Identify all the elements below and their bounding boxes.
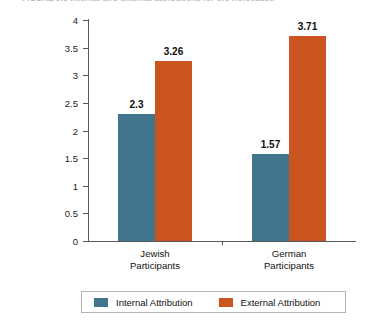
x-axis-category-label: GermanParticipants — [234, 248, 344, 272]
bar-internal — [118, 114, 155, 241]
legend-swatch-external — [219, 298, 233, 307]
legend-entry-internal: Internal Attribution — [94, 292, 193, 312]
legend-swatch-internal — [94, 298, 108, 307]
x-axis-category-label-line: Participants — [100, 260, 210, 272]
bar-internal — [252, 154, 289, 241]
y-axis-tick — [83, 241, 89, 242]
x-axis-mid-tick — [222, 241, 223, 245]
x-axis-category-label: JewishParticipants — [100, 248, 210, 272]
chart-legend: Internal Attribution External Attributio… — [81, 291, 346, 313]
legend-label-internal: Internal Attribution — [116, 297, 193, 308]
bar-value-label: 2.3 — [112, 100, 161, 110]
x-axis-category-label-line: Jewish — [100, 248, 210, 260]
bar-chart: 00.511.522.533.54 Strength of Attributio… — [0, 0, 369, 282]
bars-layer — [0, 0, 369, 241]
bar-value-label: 3.71 — [283, 22, 332, 32]
legend-entry-external: External Attribution — [219, 292, 321, 312]
bar-value-label: 3.26 — [149, 47, 198, 57]
x-axis-category-label-line: German — [234, 248, 344, 260]
bar-value-label: 1.57 — [246, 140, 295, 150]
x-axis-category-label-line: Participants — [234, 260, 344, 272]
legend-label-external: External Attribution — [241, 297, 321, 308]
bar-external — [155, 61, 192, 241]
bar-external — [289, 36, 326, 241]
